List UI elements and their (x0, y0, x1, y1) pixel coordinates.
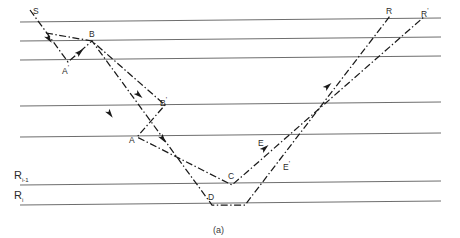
point-label-D: D (208, 193, 214, 202)
point-label-S: S (33, 7, 39, 16)
point-label-E: E (258, 139, 264, 148)
interface-label-R_i: Ri (14, 190, 23, 203)
layer-line-4 (20, 102, 441, 106)
point-label-Bp: B' (160, 96, 167, 107)
arrow-7 (323, 81, 333, 91)
point-label-R: R (386, 7, 392, 16)
point-label-Ep: E' (283, 160, 290, 171)
layer-line-5 (20, 133, 441, 137)
point-label-B: B (89, 30, 95, 39)
ray-path-secondary (46, 16, 425, 185)
arrow-1 (44, 34, 54, 45)
point-label-C: C (228, 172, 234, 181)
point-label-A: A (129, 136, 135, 145)
interface-label-R_i_minus_1: Ri-1 (14, 170, 29, 183)
layer-line-1 (20, 18, 441, 22)
point-label-Rp: R' (421, 7, 428, 18)
ray-path-figure (0, 0, 460, 238)
arrow-4 (105, 109, 115, 120)
figure-caption: (a) (213, 225, 224, 235)
point-label-Ap: A' (62, 64, 69, 75)
arrow-3 (134, 90, 144, 100)
